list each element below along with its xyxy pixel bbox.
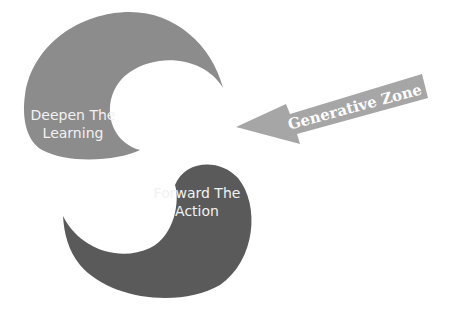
deepen-line-2: Learning [43,125,104,141]
generative-zone-label: Generative Zone [286,80,424,133]
diagram-canvas: Deepen The Learning Forward The Action G… [0,0,451,310]
forward-line-2: Action [175,203,219,219]
deepen-line-1: Deepen The [31,107,116,123]
forward-line-1: Forward The [154,185,241,201]
